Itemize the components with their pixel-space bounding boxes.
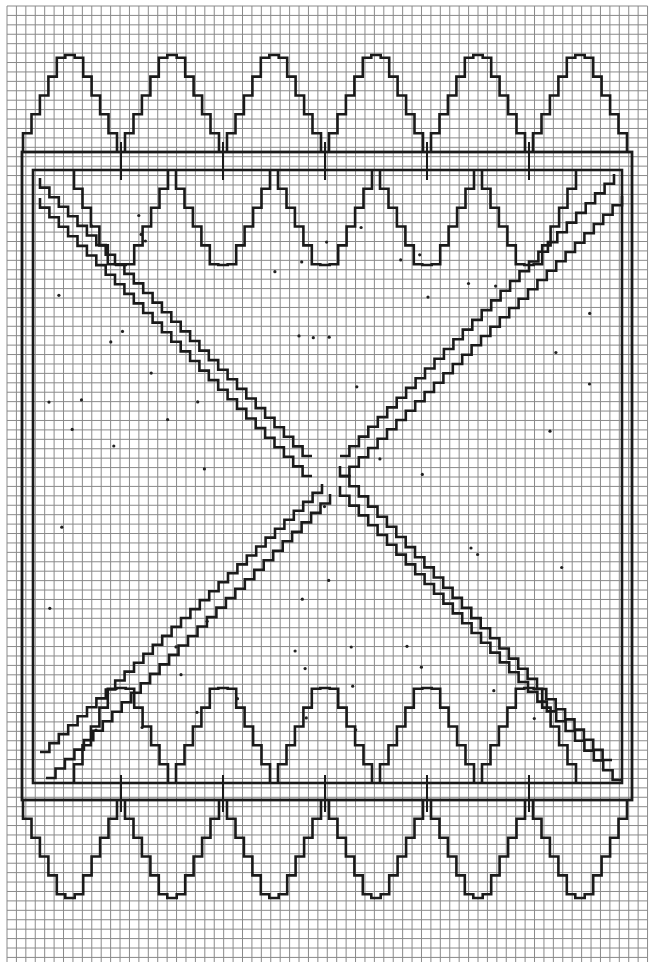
pattern-sheet: [0, 0, 658, 977]
graph-grid: [0, 0, 648, 977]
